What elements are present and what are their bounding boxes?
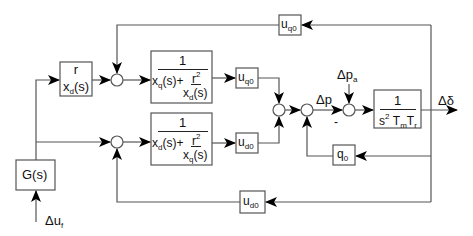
label-ud0-mid: ud0 xyxy=(238,136,254,151)
label-delta-uf: Δuf xyxy=(45,214,63,230)
label-plant: 1 s2 TmTr xyxy=(374,90,421,128)
wire-q0-to-sumB xyxy=(307,117,333,156)
label-delta-pa: Δpa xyxy=(337,68,357,84)
label-q0: q0 xyxy=(337,148,348,163)
label-delta-delta: Δδ xyxy=(438,94,454,107)
label-uq0-top: uq0 xyxy=(281,18,297,33)
r-numerator: r xyxy=(74,63,78,78)
wire-ud0-to-sumA xyxy=(258,117,279,143)
label-top-main: 1 xq(s)+ r2 xd(s) xyxy=(151,51,212,103)
label-bottom-main: 1 xd(s)+ r2 xq(s) xyxy=(151,113,212,165)
label-minus-sign: - xyxy=(334,116,338,128)
wire-G-to-r-block xyxy=(36,80,59,160)
label-uq0-mid: uq0 xyxy=(238,71,254,86)
label-G: G(s) xyxy=(22,168,47,181)
sum-junction-c xyxy=(343,104,355,116)
sum-junction-a xyxy=(273,104,285,116)
sum-junction-bottom-left xyxy=(111,136,123,148)
label-delta-p: Δp xyxy=(316,93,332,106)
label-r-over-xd: r xd(s) xyxy=(60,63,92,96)
label-ud0-bottom: ud0 xyxy=(243,195,259,210)
sum-junction-b xyxy=(301,104,313,116)
wire-uq0-to-sumA xyxy=(258,78,279,103)
sum-junction-top-left xyxy=(111,74,123,86)
